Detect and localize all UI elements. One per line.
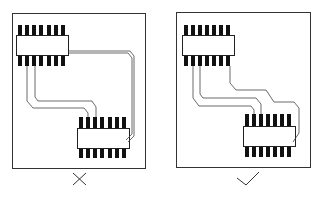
ic-chip-bottom-right (78, 117, 130, 158)
ic-chip-bottom-right (244, 114, 296, 157)
ic-chip-top-left (183, 25, 235, 66)
panel-incorrect (13, 14, 146, 186)
cross-mark-icon (73, 173, 86, 185)
panel-correct (177, 13, 311, 186)
check-mark-icon (237, 172, 259, 185)
pcb-layout-comparison (0, 0, 316, 198)
ic-chip-top-left (17, 25, 69, 66)
